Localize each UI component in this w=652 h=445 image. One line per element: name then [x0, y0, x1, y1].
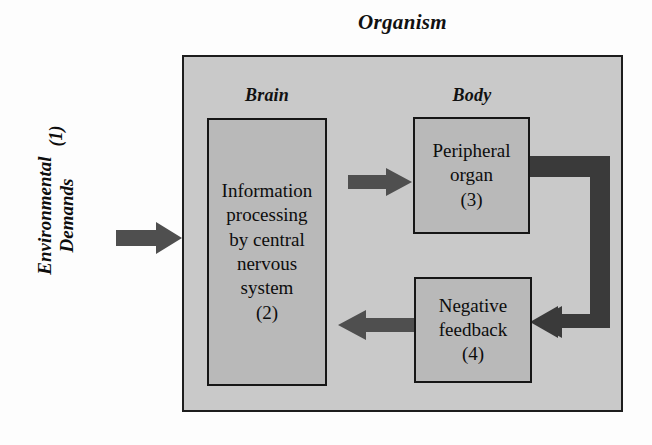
diagram-canvas: Organism Brain Body Environmental Demand…	[0, 0, 652, 445]
cns-line-2: processing	[226, 203, 307, 227]
peripheral-organ-number: (3)	[460, 188, 482, 212]
negative-feedback-line-1: Negative	[439, 294, 508, 318]
section-label-body: Body	[413, 85, 531, 106]
cns-line-4: nervous	[237, 252, 297, 276]
environmental-demands-label: Environmental Demands (1)	[28, 100, 84, 300]
node-peripheral-organ[interactable]: Peripheral organ (3)	[413, 117, 530, 234]
negative-feedback-number: (4)	[462, 342, 484, 366]
arrow-input-to-cns-icon	[116, 222, 184, 256]
cns-line-3: by central	[229, 228, 304, 252]
negative-feedback-line-2: feedback	[439, 318, 508, 342]
cns-number: (2)	[256, 301, 278, 325]
cns-line-1: Information	[222, 179, 313, 203]
arrow-negative-feedback-to-cns-icon	[336, 310, 416, 340]
arrow-peripheral-organ-to-negative-feedback-icon	[528, 166, 618, 346]
peripheral-organ-line-1: Peripheral	[432, 139, 510, 163]
arrow-cns-to-peripheral-organ-icon	[348, 168, 414, 198]
cns-line-5: system	[241, 276, 294, 300]
node-central-nervous-system[interactable]: Information processing by central nervou…	[207, 118, 327, 386]
environmental-demands-number: (1)	[46, 125, 67, 146]
node-negative-feedback[interactable]: Negative feedback (4)	[414, 277, 532, 383]
environmental-demands-text: Environmental Demands	[34, 156, 79, 274]
peripheral-organ-line-2: organ	[450, 163, 493, 187]
organism-title: Organism	[182, 10, 623, 35]
environmental-demands-line-1: Environmental	[34, 156, 56, 274]
section-label-brain: Brain	[207, 85, 327, 106]
environmental-demands-line-2: Demands	[56, 179, 78, 253]
